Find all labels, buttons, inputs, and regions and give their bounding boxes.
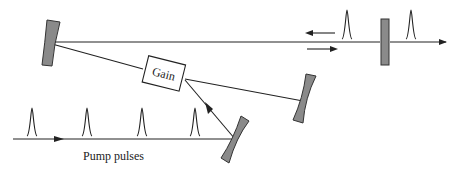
right-arrow-icon	[330, 46, 338, 52]
pump-pulses	[27, 108, 200, 136]
pump-pulse-icon	[27, 108, 37, 136]
round-trip-arrows	[305, 30, 338, 52]
left-curved-mirror-icon	[42, 20, 60, 66]
pump-pulse-icon	[137, 108, 147, 136]
intracavity-pulse-icon	[342, 10, 352, 39]
output-coupler-icon	[381, 19, 389, 65]
laser-cavity-diagram: Gain Pump pulses	[0, 0, 457, 173]
pump-direction-arrow-icon	[54, 136, 64, 142]
left-arrow-icon	[305, 30, 313, 36]
gain-medium: Gain	[142, 56, 185, 91]
pump-pulses-label: Pump pulses	[83, 149, 144, 163]
pump-pulse-icon	[190, 108, 200, 136]
pump-beam	[13, 136, 235, 142]
pump-pulse-icon	[82, 108, 92, 136]
fold-curved-mirror-icon	[293, 74, 316, 123]
output-pulse-icon	[406, 10, 416, 39]
